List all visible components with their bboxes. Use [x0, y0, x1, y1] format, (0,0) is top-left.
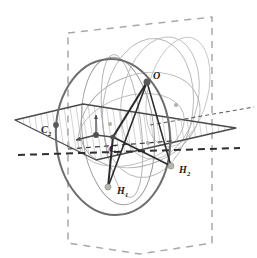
- point-origin: [93, 132, 99, 138]
- point-aux-2: [108, 122, 112, 126]
- point-O: [144, 79, 151, 86]
- label-H2: H 2: [178, 164, 191, 177]
- point-C2: [53, 122, 59, 128]
- geometry-diagram: O C 1 C 2 H 1 H 2: [0, 0, 257, 258]
- label-O: O: [153, 70, 160, 81]
- point-C1: [110, 134, 115, 139]
- label-H1: H 1: [116, 185, 128, 198]
- point-H1: [105, 184, 111, 190]
- label-C1-text: C: [109, 143, 116, 154]
- point-aux-3: [146, 141, 150, 145]
- label-H2-subscript: 2: [186, 170, 191, 177]
- label-C2-text: C: [41, 124, 48, 135]
- point-H2: [168, 163, 174, 169]
- point-aux-1: [174, 103, 178, 107]
- figure-container: O C 1 C 2 H 1 H 2: [0, 0, 257, 258]
- label-H1-subscript: 1: [125, 191, 128, 198]
- label-O-text: O: [153, 70, 160, 81]
- label-C1-subscript: 1: [116, 149, 119, 156]
